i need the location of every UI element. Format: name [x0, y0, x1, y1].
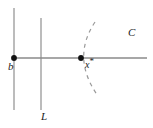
- diagram-canvas: [0, 0, 153, 128]
- label-L: L: [41, 111, 47, 122]
- point-x-star-marker: [78, 55, 84, 61]
- label-b: b: [8, 61, 14, 72]
- label-x-star-superscript: *: [89, 56, 94, 66]
- geometry-diagram: b x* L C: [0, 0, 153, 128]
- label-C: C: [128, 27, 135, 38]
- label-x-star: x*: [85, 60, 94, 70]
